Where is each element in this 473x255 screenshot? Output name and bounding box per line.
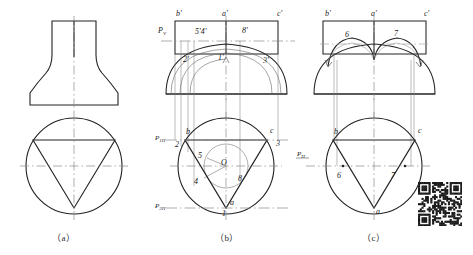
panel-b (161, 16, 295, 222)
label-b-p1h: P1H (154, 134, 166, 143)
label-b-top-7: O (221, 158, 227, 167)
label-c-front-3: 6 (345, 30, 349, 39)
label-c-ph: PH (296, 150, 305, 159)
panel-c (306, 16, 435, 222)
label-c-front-1: a' (371, 9, 377, 18)
label-c-front-2: c' (424, 9, 430, 18)
label-b-top-0: b (186, 127, 190, 136)
panel-a (20, 16, 128, 222)
label-b-top-3: 3 (275, 139, 280, 148)
label-c-front-4: 7 (394, 29, 399, 38)
label-b-pv-trace: PV (157, 26, 167, 36)
caption-c: （c） (362, 231, 385, 244)
panel-c-point-7 (404, 165, 407, 168)
caption-a: （a） (52, 231, 75, 244)
label-b-front-6: 1' (218, 53, 224, 62)
panel-c-front-labels: b' a' c' 6 7 (325, 9, 430, 39)
panel-c-point-6 (342, 165, 345, 168)
label-c-top-2: 6 (337, 171, 341, 180)
label-b-front-2: c' (277, 9, 283, 18)
technical-drawing-figure: b' a' c' 5'4' 8' 2' 1' 3' PV b c 2 3 5 4… (0, 0, 473, 255)
panel-b-arc-3 (190, 59, 226, 94)
label-c-top-0: b (334, 127, 338, 136)
label-b-top-1: c (270, 126, 274, 135)
label-b-p2h: P2H (154, 202, 166, 211)
label-b-front-3: 5'4' (195, 27, 207, 36)
label-b-front-5: 2' (183, 55, 189, 64)
label-b-top-2: 2 (175, 140, 179, 149)
qr-code (418, 182, 462, 226)
panel-b-front-labels: b' a' c' 5'4' 8' 2' 1' 3' PV (157, 9, 283, 65)
label-b-top-8: a (230, 198, 234, 207)
label-b-front-1: a' (222, 9, 228, 18)
label-c-top-1: c (418, 126, 422, 135)
label-c-front-0: b' (325, 9, 331, 18)
caption-b: （b） (215, 231, 239, 244)
label-b-top-6: 8 (238, 174, 242, 183)
label-b-top-5: 4 (194, 177, 198, 186)
label-b-front-4: 8' (242, 26, 248, 35)
label-c-top-4: a (376, 207, 380, 216)
label-b-top-9: 1 (222, 209, 226, 218)
label-b-front-7: 3' (262, 56, 269, 65)
label-b-top-4: 5 (198, 151, 202, 160)
label-b-front-0: b' (176, 9, 182, 18)
